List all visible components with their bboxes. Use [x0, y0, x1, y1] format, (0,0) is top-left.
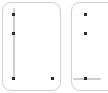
left-panel-vertical-track[interactable]	[13, 8, 15, 80]
left-panel-marker-4[interactable]	[51, 77, 54, 80]
right-panel-horizontal-track[interactable]	[73, 78, 101, 80]
left-panel-marker-2[interactable]	[12, 32, 15, 35]
right-panel-marker-1[interactable]	[84, 13, 87, 16]
right-panel[interactable]	[71, 2, 108, 91]
right-panel-marker-3[interactable]	[84, 77, 87, 80]
screenshot-canvas	[0, 0, 108, 93]
left-panel-marker-3[interactable]	[12, 77, 15, 80]
right-panel-marker-2[interactable]	[84, 32, 87, 35]
left-panel[interactable]	[2, 2, 61, 91]
left-panel-marker-1[interactable]	[12, 13, 15, 16]
